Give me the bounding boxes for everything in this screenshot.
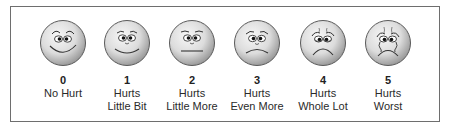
- slightly-sad-face-icon: [233, 19, 281, 67]
- face-item-5: 5 Hurts Worst: [348, 7, 428, 123]
- neutral-face-icon: [168, 19, 216, 67]
- crying-face-icon: [364, 19, 412, 67]
- happy-face-icon: [103, 19, 151, 67]
- face-number: 5: [348, 74, 428, 87]
- very-happy-face-icon: [39, 19, 87, 67]
- face-label: Hurts: [338, 87, 438, 100]
- sad-face-icon: [299, 19, 347, 67]
- pain-scale-frame: 0 No Hurt 1 Hurts Little Bit: [10, 6, 440, 122]
- face-label-line2: Worst: [338, 100, 438, 113]
